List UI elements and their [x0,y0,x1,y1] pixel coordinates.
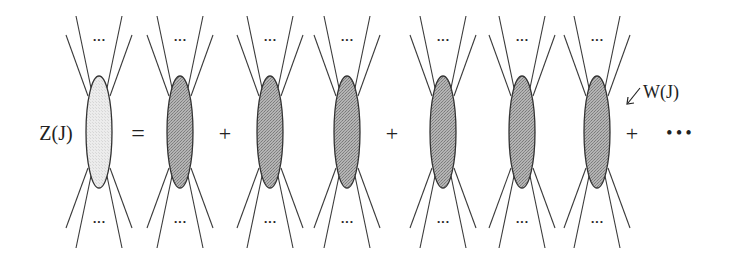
bottom-legs-ellipsis: ··· [590,214,603,229]
external-leg [574,176,589,248]
z-of-j-label: Z(J) [39,122,72,145]
external-leg [420,16,435,88]
bottom-legs-ellipsis: ··· [173,214,186,229]
external-leg [420,176,435,248]
external-leg [564,35,586,96]
external-leg [454,168,476,228]
plus-sign: + [626,121,638,146]
external-leg [358,168,380,228]
blob-ellipse [257,76,283,188]
bottom-legs-ellipsis: ··· [263,214,276,229]
blob: ······ [489,16,555,248]
external-leg [191,35,213,96]
top-legs-ellipsis: ··· [436,32,449,47]
equals-sign: = [131,120,145,146]
plus-sign: + [386,121,398,146]
top-legs-ellipsis: ··· [590,32,603,47]
external-leg [66,168,88,228]
external-leg [76,16,91,88]
external-leg [499,16,514,88]
external-leg [324,176,339,248]
generating-functional-blob: ······ [66,16,132,248]
external-leg [608,35,630,96]
annotation-arrow-icon [628,88,640,103]
external-leg [147,35,169,96]
external-leg [533,35,555,96]
blob: ······ [66,16,132,248]
top-legs-ellipsis: ··· [92,32,105,47]
sum-term: ············ [237,16,380,248]
external-leg [237,35,259,96]
external-leg [355,176,370,248]
external-leg [281,35,303,96]
blob: ······ [237,16,303,248]
top-legs-ellipsis: ··· [340,32,353,47]
external-leg [237,168,259,228]
external-leg [247,176,262,248]
external-leg [489,35,511,96]
external-leg [355,16,370,88]
external-leg [278,16,293,88]
blob: ······ [147,16,213,248]
blob-ellipse [334,76,360,188]
external-leg [451,16,466,88]
blob-ellipse [509,76,535,188]
blob: ······ [564,16,630,248]
blob: ······ [314,16,380,248]
bottom-legs-ellipsis: ··· [92,214,105,229]
external-leg [574,16,589,88]
external-leg [499,176,514,248]
w-of-j-label: W(J) [643,82,679,103]
external-leg [608,168,630,228]
external-leg [157,176,172,248]
external-leg [76,176,91,248]
external-leg [191,168,213,228]
sum-term: ······ [564,16,630,248]
external-leg [314,168,336,228]
blob-ellipse [430,76,456,188]
external-leg [107,176,122,248]
sum-term: ············ [410,16,555,248]
external-leg [247,16,262,88]
blob-ellipse [86,76,112,188]
top-legs-ellipsis: ··· [173,32,186,47]
external-leg [410,168,432,228]
external-leg [530,176,545,248]
sum-term: ······ [147,16,213,248]
external-leg [147,168,169,228]
w-of-j-annotation: W(J) [627,82,679,104]
top-legs-ellipsis: ··· [263,32,276,47]
diagram-canvas: Z(J) ······ = ··························… [0,0,734,264]
external-leg [451,176,466,248]
trailing-ellipsis: • • • [667,124,692,141]
external-leg [605,176,620,248]
blob-ellipse [584,76,610,188]
external-leg [110,168,132,228]
external-leg [410,35,432,96]
external-leg [454,35,476,96]
blob-ellipse [167,76,193,188]
external-leg [605,16,620,88]
external-leg [530,16,545,88]
plus-sign: + [219,121,231,146]
external-leg [281,168,303,228]
external-leg [107,16,122,88]
blob: ······ [410,16,476,248]
external-leg [188,16,203,88]
external-leg [324,16,339,88]
external-leg [564,168,586,228]
bottom-legs-ellipsis: ··· [515,214,528,229]
external-leg [489,168,511,228]
external-leg [66,35,88,96]
external-leg [278,176,293,248]
external-leg [188,176,203,248]
external-leg [358,35,380,96]
bottom-legs-ellipsis: ··· [340,214,353,229]
external-leg [157,16,172,88]
top-legs-ellipsis: ··· [515,32,528,47]
external-leg [314,35,336,96]
external-leg [533,168,555,228]
bottom-legs-ellipsis: ··· [436,214,449,229]
external-leg [110,35,132,96]
